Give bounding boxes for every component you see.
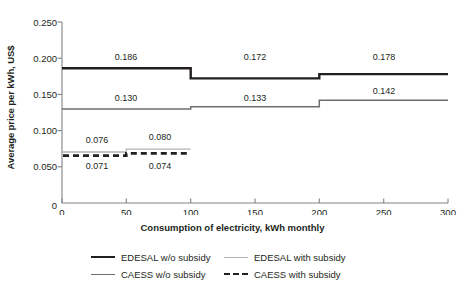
data-label-caess-with-2: 0.074 bbox=[149, 161, 172, 171]
legend-item-caess-with-subsidy: CAESS with subsidy bbox=[224, 269, 374, 280]
data-label-edesal-with-1: 0.076 bbox=[86, 135, 109, 145]
x-tick-label-0: 0 bbox=[59, 207, 64, 215]
dashed-dark-line-icon bbox=[224, 270, 248, 280]
data-label-caess-with-1: 0.071 bbox=[86, 161, 109, 171]
chart-legend: EDESAL w/o subsidy EDESAL with subsidy C… bbox=[0, 249, 465, 283]
legend-item-edesal-with-subsidy: EDESAL with subsidy bbox=[224, 252, 374, 263]
series-line-caess-with-subsidy bbox=[63, 153, 191, 155]
x-tick-label-200: 200 bbox=[311, 207, 327, 215]
x-tick-label-300: 300 bbox=[440, 207, 456, 215]
series-line-edesal-with-subsidy bbox=[63, 149, 191, 152]
data-label-edesal-wo-1: 0.186 bbox=[115, 52, 138, 62]
medium-gray-line-icon bbox=[91, 270, 115, 280]
data-label-edesal-with-2: 0.080 bbox=[149, 132, 172, 142]
thick-dark-line-icon bbox=[91, 253, 115, 263]
y-tick-label-0: 0 bbox=[52, 200, 57, 211]
legend-label-edesal-with-subsidy: EDESAL with subsidy bbox=[254, 252, 346, 263]
legend-item-caess-wo-subsidy: CAESS w/o subsidy bbox=[91, 269, 224, 280]
legend-row-1: EDESAL w/o subsidy EDESAL with subsidy bbox=[0, 249, 465, 266]
x-tick-label-150: 150 bbox=[247, 207, 263, 215]
x-tick-label-50: 50 bbox=[121, 207, 132, 215]
legend-label-caess-with-subsidy: CAESS with subsidy bbox=[254, 269, 341, 280]
chart-figure: Average price per kWh, US$ 0.250 0.200 0… bbox=[0, 0, 465, 291]
legend-row-2: CAESS w/o subsidy CAESS with subsidy bbox=[0, 266, 465, 283]
y-tick-label-0200: 0.200 bbox=[33, 53, 57, 64]
legend-label-edesal-wo-subsidy: EDESAL w/o subsidy bbox=[121, 252, 210, 263]
plot-area: 0.250 0.200 0.150 0.100 0.050 0 0 50 100… bbox=[0, 0, 465, 215]
data-label-caess-wo-2: 0.133 bbox=[244, 93, 267, 103]
legend-item-edesal-wo-subsidy: EDESAL w/o subsidy bbox=[91, 252, 224, 263]
y-tick-label-0100: 0.100 bbox=[33, 125, 57, 136]
series-line-edesal-wo-subsidy bbox=[62, 68, 448, 78]
legend-label-caess-wo-subsidy: CAESS w/o subsidy bbox=[121, 269, 205, 280]
y-tick-label-0250: 0.250 bbox=[33, 17, 57, 28]
thin-light-line-icon bbox=[224, 253, 248, 263]
x-tick-label-100: 100 bbox=[183, 207, 199, 215]
x-tick-label-250: 250 bbox=[376, 207, 392, 215]
data-label-caess-wo-1: 0.130 bbox=[115, 93, 138, 103]
data-label-edesal-wo-2: 0.172 bbox=[244, 52, 267, 62]
y-tick-label-0050: 0.050 bbox=[33, 161, 57, 172]
data-label-edesal-wo-3: 0.178 bbox=[373, 52, 396, 62]
y-tick-label-0150: 0.150 bbox=[33, 89, 57, 100]
x-axis-title: Consumption of electricity, kWh monthly bbox=[0, 222, 465, 233]
data-label-caess-wo-3: 0.142 bbox=[373, 86, 396, 96]
